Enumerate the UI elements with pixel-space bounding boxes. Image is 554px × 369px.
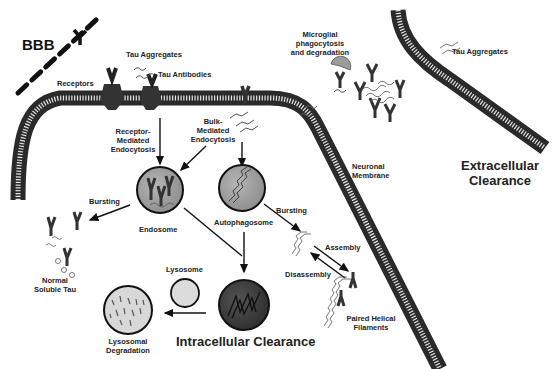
ld-line2: Degradation <box>103 346 153 355</box>
ec-line1: Extracellular <box>448 158 552 173</box>
neuronal-membrane-label: Neuronal Membrane <box>352 162 390 180</box>
bursting-left-label: Bursting <box>89 197 120 206</box>
extracellular-antibody-cluster <box>355 64 404 122</box>
microglial-line1: Microglial <box>280 30 360 39</box>
autolysosome <box>219 280 269 330</box>
lysosomal-degradation <box>104 286 152 334</box>
endosome <box>137 167 183 213</box>
receptor-icon <box>100 68 124 110</box>
rme-line1: Receptor- <box>108 127 158 136</box>
tau-antibodies-label: Tau Antibodies <box>158 70 211 79</box>
phf-line1: Paired Helical <box>340 314 402 323</box>
microglial-line2: phagocytosis <box>280 39 360 48</box>
ec-line2: Clearance <box>448 173 552 188</box>
microglial-line3: and degradation <box>280 48 360 57</box>
receptors-label: Receptors <box>57 79 94 88</box>
neuronal-membrane <box>18 10 545 369</box>
lysosome-label: Lysosome <box>166 265 203 274</box>
nm-line2: Membrane <box>352 171 390 180</box>
autophagosome <box>219 165 265 211</box>
nst-line2: Soluble Tau <box>30 285 80 294</box>
nm-line1: Neuronal <box>352 162 390 171</box>
bursting-right-label: Bursting <box>276 206 307 215</box>
tau-clearance-diagram: BBB Receptors Tau Aggregates Tau Antibod… <box>0 0 554 369</box>
receptor-mediated-endocytosis-label: Receptor- Mediated Endocytosis <box>108 127 158 154</box>
bme-line3: Endocytosis <box>188 135 238 144</box>
lysosome <box>171 279 199 307</box>
disassembly-label: Disassembly <box>285 270 331 279</box>
bulk-mediated-endocytosis-label: Bulk- Mediated Endocytosis <box>188 117 238 144</box>
ld-line1: Lysosomal <box>103 337 153 346</box>
normal-soluble-tau-label: Normal Soluble Tau <box>30 276 80 294</box>
microglial-label: Microglial phagocytosis and degradation <box>280 30 360 57</box>
bme-line1: Bulk- <box>188 117 238 126</box>
paired-helical-filaments-label: Paired Helical Filaments <box>340 314 402 332</box>
tau-oligomer <box>292 232 311 256</box>
nst-line1: Normal <box>30 276 80 285</box>
rme-line3: Endocytosis <box>108 145 158 154</box>
lysosomal-degradation-label: Lysosomal Degradation <box>103 337 153 355</box>
microglia-icon <box>331 56 351 92</box>
endosome-label: Endosome <box>139 225 177 234</box>
autophagosome-label: Autophagosome <box>214 218 273 227</box>
phf-line2: Filaments <box>340 323 402 332</box>
extracellular-clearance-label: Extracellular Clearance <box>448 158 552 188</box>
bme-line2: Mediated <box>188 126 238 135</box>
rme-line2: Mediated <box>108 136 158 145</box>
tau-aggregates-top-label: Tau Aggregates <box>126 50 182 59</box>
intracellular-clearance-label: Intracellular Clearance <box>176 334 315 349</box>
normal-soluble-tau <box>46 212 81 278</box>
bbb-label: BBB <box>22 40 55 49</box>
tau-aggregates-right-label: Tau Aggregates <box>452 47 508 56</box>
assembly-label: Assembly <box>325 243 360 252</box>
